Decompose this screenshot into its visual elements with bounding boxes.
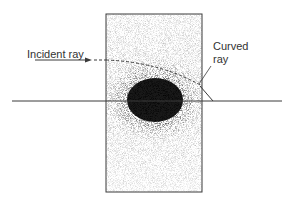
arrowhead-icon (85, 58, 92, 63)
incident-ray-label: Incident ray (27, 48, 84, 60)
curved-ray-label-line1: Curved (213, 40, 248, 52)
medium-block (105, 14, 205, 192)
diagram-canvas (0, 0, 294, 203)
curved-ray-label-line2: ray (213, 53, 228, 65)
dense-region-core (127, 78, 183, 122)
